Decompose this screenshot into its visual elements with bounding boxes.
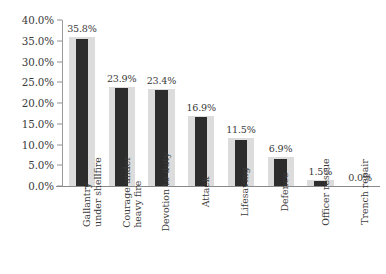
bar-value-label: 11.5%	[226, 124, 255, 135]
x-axis-tick: Courage underheavy fire	[102, 190, 142, 274]
x-axis-tick-label-line: Devotion to duty	[160, 153, 171, 232]
x-axis-tick: Devotion to duty	[142, 190, 182, 274]
x-axis-tick-label-line: Lifesaving	[240, 168, 251, 217]
x-axis-tick-label-line: Defence	[280, 173, 291, 212]
y-axis-tick-label: 40.0%	[22, 14, 54, 26]
y-axis-tick-label: 25.0%	[22, 76, 54, 88]
x-axis-tick-label-line: Attack	[200, 177, 211, 208]
x-axis-tick-label-line: Courage under	[121, 156, 132, 228]
y-axis-tick-label: 20.0%	[22, 97, 54, 109]
x-axis-tick: Officer rescue	[301, 190, 341, 274]
y-axis-tick-label: 30.0%	[22, 56, 54, 68]
x-axis-labels: Gallantryunder shellfireCourage underhea…	[62, 190, 380, 274]
bar-group[interactable]: 6.9%	[261, 20, 301, 186]
y-axis-tick-label: 0.0%	[28, 180, 54, 192]
x-axis-tick-label-line: Officer rescue	[319, 158, 330, 225]
x-axis-tick-label-line: Gallantry	[81, 183, 92, 227]
y-axis-tick-label: 15.0%	[22, 118, 54, 130]
x-axis-tick: Attack	[181, 190, 221, 274]
x-axis-tick-label-line: Trench repair	[359, 159, 370, 225]
y-axis: 0.0%5.0%10.0%15.0%20.0%25.0%30.0%35.0%40…	[0, 0, 62, 274]
x-axis-tick: Trench repair	[340, 190, 380, 274]
bar-value-label: 23.9%	[107, 73, 136, 84]
y-axis-tick-label: 10.0%	[22, 139, 54, 151]
y-axis-tick-label: 5.0%	[28, 159, 54, 171]
x-axis-tick: Lifesaving	[221, 190, 261, 274]
x-axis-tick-label: Trench repair	[360, 159, 386, 225]
x-axis-tick: Gallantryunder shellfire	[62, 190, 102, 274]
y-axis-tick-label: 35.0%	[22, 35, 54, 47]
bar-value-label: 16.9%	[186, 102, 215, 113]
bar-value-label: 35.8%	[67, 23, 96, 34]
bar-value-label: 23.4%	[147, 75, 176, 86]
bar-chart: 0.0%5.0%10.0%15.0%20.0%25.0%30.0%35.0%40…	[0, 0, 386, 274]
x-axis-tick: Defence	[261, 190, 301, 274]
bar-value-label: 6.9%	[269, 143, 293, 154]
